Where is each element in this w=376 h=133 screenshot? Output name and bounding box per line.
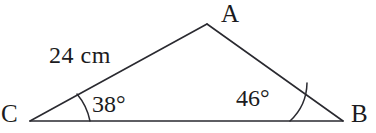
angle-arc-c — [77, 94, 90, 121]
vertex-label-a: A — [221, 1, 239, 26]
triangle-figure: A B C 38° 46° 24 cm — [0, 0, 376, 133]
side-length-label-ca: 24 cm — [49, 43, 111, 67]
angle-label-c: 38° — [92, 92, 126, 116]
angle-label-b: 46° — [236, 86, 270, 110]
vertex-label-b: B — [351, 101, 368, 126]
vertex-label-c: C — [1, 101, 18, 126]
side-ab-line — [207, 24, 343, 121]
